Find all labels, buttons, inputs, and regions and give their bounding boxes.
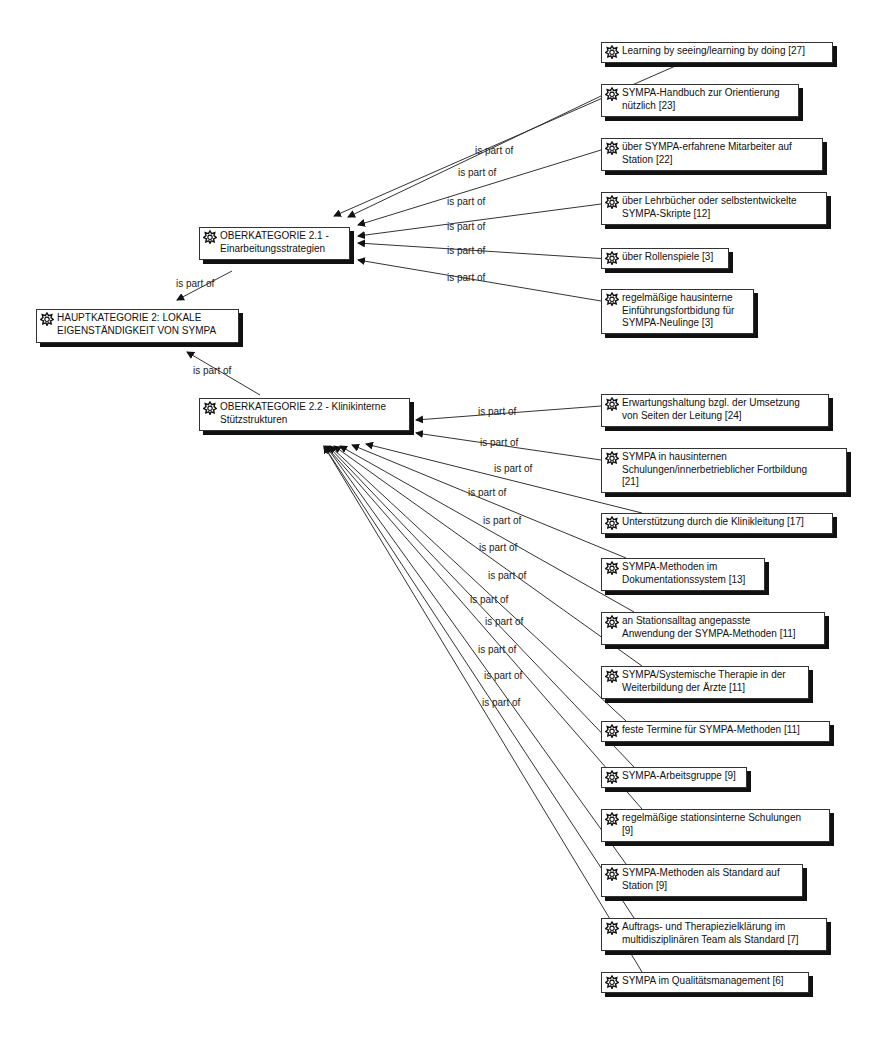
edge-label: is part of [193, 365, 231, 376]
code-node-b12[interactable]: SYMPA im Qualitätsmanagement [6] [601, 972, 809, 993]
code-node-ok22[interactable]: OBERKATEGORIE 2.2 - Klinikinterne Stützs… [199, 398, 410, 431]
node-label: SYMPA-Arbeitsgruppe [9] [622, 770, 741, 783]
node-label: Learning by seeing/learning by doing [27… [622, 45, 827, 58]
node-label: an Stationsalltag angepasste Anwendung d… [622, 615, 819, 640]
code-family-icon [605, 867, 619, 881]
code-family-icon [605, 45, 619, 59]
code-family-icon [605, 812, 619, 826]
node-label: SYMPA in hausinternen Schulungen/innerbe… [622, 451, 841, 489]
node-label: SYMPA-Handbuch zur Orientierung nützlich… [622, 87, 793, 112]
code-node-b11[interactable]: Auftrags- und Therapiezielklärung im mul… [601, 918, 827, 951]
code-family-icon [203, 401, 217, 415]
code-family-icon [605, 669, 619, 683]
code-node-b1[interactable]: Erwartungshaltung bzgl. der Umsetzung vo… [601, 394, 829, 427]
edge-label: is part of [447, 245, 485, 256]
edge-b5-ok22[interactable] [340, 446, 634, 612]
code-node-a6[interactable]: regelmäßige hausinterne Einführungsfortb… [601, 289, 754, 334]
code-family-icon [605, 516, 619, 530]
code-node-a3[interactable]: über SYMPA-erfahrene Mitarbeiter auf Sta… [601, 138, 823, 171]
edge-label: is part of [479, 542, 517, 553]
code-family-icon [605, 141, 619, 155]
code-family-icon [203, 230, 217, 244]
node-label: SYMPA-Methoden als Standard auf Station … [622, 867, 797, 892]
code-family-icon [605, 615, 619, 629]
edge-label: is part of [485, 616, 523, 627]
node-label: über Lehrbücher oder selbstentwickelte S… [622, 195, 821, 220]
edge-label: is part of [482, 697, 520, 708]
edge-label: is part of [478, 644, 516, 655]
code-node-hk2[interactable]: HAUPTKATEGORIE 2: LOKALE EIGENSTÄNDIGKEI… [36, 309, 239, 343]
code-node-b8[interactable]: SYMPA-Arbeitsgruppe [9] [601, 767, 747, 788]
edge-label: is part of [447, 196, 485, 207]
code-family-icon [605, 770, 619, 784]
code-family-icon [605, 251, 619, 265]
code-family-icon [605, 451, 619, 465]
node-label: SYMPA im Qualitätsmanagement [6] [622, 975, 803, 988]
edge-label: is part of [447, 272, 485, 283]
code-family-icon [605, 975, 619, 989]
node-label: Erwartungshaltung bzgl. der Umsetzung vo… [622, 397, 823, 422]
edge-label: is part of [478, 406, 516, 417]
edge-b6-ok22[interactable] [334, 446, 642, 666]
edge-label: is part of [176, 278, 214, 289]
code-family-icon [605, 292, 619, 306]
code-node-b6[interactable]: SYMPA/Systemische Therapie in der Weiter… [601, 666, 809, 699]
code-node-b3[interactable]: Unterstützung durch die Klinikleitung [1… [601, 513, 833, 534]
edge-b10-ok22[interactable] [326, 446, 626, 864]
node-label: Auftrags- und Therapiezielklärung im mul… [622, 921, 821, 946]
code-family-icon [605, 397, 619, 411]
code-family-icon [605, 195, 619, 209]
node-label: OBERKATEGORIE 2.2 - Klinikinterne Stützs… [220, 401, 404, 426]
edge-label: is part of [470, 594, 508, 605]
node-label: Unterstützung durch die Klinikleitung [1… [622, 516, 827, 529]
edge-label: is part of [494, 463, 532, 474]
edge-label: is part of [468, 487, 506, 498]
code-node-b9[interactable]: regelmäßige stationsinterne Schulungen [… [601, 809, 830, 842]
edge-label: is part of [480, 437, 518, 448]
node-label: regelmäßige stationsinterne Schulungen [… [622, 812, 824, 837]
edge-a3-ok21[interactable] [358, 150, 601, 225]
network-view-canvas: is part ofis part ofis part ofis part of… [0, 0, 881, 1037]
code-node-b4[interactable]: SYMPA-Methoden im Dokumentationssystem [… [601, 558, 765, 591]
code-node-a4[interactable]: über Lehrbücher oder selbstentwickelte S… [601, 192, 827, 225]
code-family-icon [605, 724, 619, 738]
node-label: regelmäßige hausinterne Einführungsfortb… [622, 292, 748, 330]
code-node-a1[interactable]: Learning by seeing/learning by doing [27… [601, 42, 833, 63]
code-node-b10[interactable]: SYMPA-Methoden als Standard auf Station … [601, 864, 803, 897]
code-family-icon [605, 87, 619, 101]
code-family-icon [605, 561, 619, 575]
code-node-b5[interactable]: an Stationsalltag angepasste Anwendung d… [601, 612, 825, 645]
node-label: über SYMPA-erfahrene Mitarbeiter auf Sta… [622, 141, 817, 166]
code-node-a2[interactable]: SYMPA-Handbuch zur Orientierung nützlich… [601, 84, 799, 117]
code-family-icon [40, 312, 54, 326]
code-node-b2[interactable]: SYMPA in hausinternen Schulungen/innerbe… [601, 448, 847, 493]
code-node-b7[interactable]: feste Termine für SYMPA-Methoden [11] [601, 721, 830, 742]
node-label: feste Termine für SYMPA-Methoden [11] [622, 724, 824, 737]
code-family-icon [605, 921, 619, 935]
code-node-ok21[interactable]: OBERKATEGORIE 2.1 - Einarbeitungsstrateg… [199, 227, 350, 260]
node-label: OBERKATEGORIE 2.1 - Einarbeitungsstrateg… [220, 230, 344, 255]
edge-b9-ok22[interactable] [326, 446, 642, 809]
node-label: SYMPA/Systemische Therapie in der Weiter… [622, 669, 803, 694]
node-label: HAUPTKATEGORIE 2: LOKALE EIGENSTÄNDIGKEI… [57, 312, 233, 337]
edge-label: is part of [475, 145, 513, 156]
edge-b11-ok22[interactable] [324, 446, 634, 918]
node-label: über Rollenspiele [3] [622, 251, 723, 264]
edge-label: is part of [483, 515, 521, 526]
edge-label: is part of [458, 167, 496, 178]
node-label: SYMPA-Methoden im Dokumentationssystem [… [622, 561, 759, 586]
code-node-a5[interactable]: über Rollenspiele [3] [601, 248, 729, 269]
edge-label: is part of [484, 670, 522, 681]
edge-label: is part of [447, 221, 485, 232]
edge-label: is part of [488, 570, 526, 581]
